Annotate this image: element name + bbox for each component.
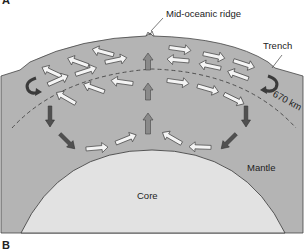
mantle-convection-diagram: Mid-oceanic ridge Trench 670 km Mantle C… — [0, 0, 305, 252]
ridge-leader-line — [151, 18, 163, 31]
mantle-label: Mantle — [247, 162, 276, 173]
panel-label-b: B — [2, 239, 10, 251]
core-label: Core — [137, 190, 158, 201]
trench-leader-line — [272, 55, 282, 68]
ridge-label: Mid-oceanic ridge — [166, 8, 241, 19]
trench-label: Trench — [263, 40, 292, 51]
